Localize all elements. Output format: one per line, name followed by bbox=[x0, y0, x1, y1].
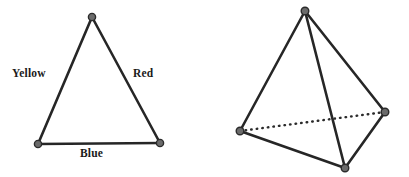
triangle-edge-red bbox=[92, 17, 160, 143]
tetrahedron-group bbox=[236, 7, 389, 172]
triangle-label-blue: Blue bbox=[80, 148, 103, 160]
triangle-label-red: Red bbox=[133, 68, 153, 80]
tetra-vertex-bottom bbox=[341, 164, 349, 172]
triangle-edge-blue bbox=[38, 143, 160, 144]
triangle-vertex-bottom-left bbox=[34, 140, 41, 147]
geometry-svg bbox=[0, 0, 409, 177]
triangle-label-yellow: Yellow bbox=[12, 68, 46, 80]
tetra-vertex-apex bbox=[301, 7, 309, 15]
diagram-canvas: Yellow Red Blue bbox=[0, 0, 409, 177]
tetra-edge-apex-left bbox=[240, 11, 305, 131]
triangle-vertex-apex bbox=[88, 13, 95, 20]
tetra-vertex-left bbox=[236, 127, 244, 135]
tetra-vertex-right bbox=[381, 108, 389, 116]
tetra-edge-right-bottom bbox=[345, 112, 385, 168]
tetra-edge-hidden-left-right bbox=[240, 112, 385, 131]
triangle-edge-yellow bbox=[38, 17, 92, 144]
triangle-vertex-bottom-right bbox=[156, 139, 163, 146]
triangle-group bbox=[34, 13, 163, 147]
tetra-edge-left-bottom bbox=[240, 131, 345, 168]
